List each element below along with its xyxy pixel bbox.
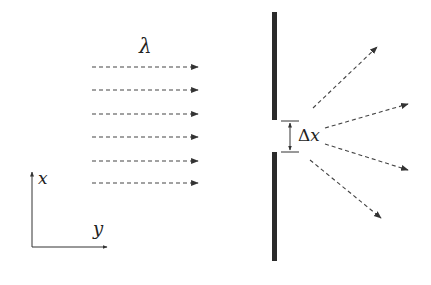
slit-wall (272, 12, 277, 261)
delta-symbol: Δ (298, 125, 310, 145)
wavelength-label: λ (139, 36, 152, 56)
diffracted-ray-arrow (325, 144, 408, 170)
diffraction-diagram: λ Δx x y (0, 0, 431, 285)
axis-x-label: x (38, 170, 48, 187)
diffracted-ray-arrow (325, 104, 408, 128)
diagram-canvas (0, 0, 431, 285)
wall-bottom-segment (272, 152, 277, 261)
diffracted-ray-arrow (310, 160, 381, 218)
diffracted-rays (310, 47, 408, 218)
incident-rays (92, 67, 198, 183)
diffracted-ray-arrow (313, 47, 377, 108)
slit-width-bracket (281, 121, 299, 152)
slit-width-variable: x (310, 125, 320, 145)
axis-y-label: y (93, 220, 103, 238)
wall-top-segment (272, 12, 277, 120)
slit-width-label: Δx (298, 127, 320, 144)
